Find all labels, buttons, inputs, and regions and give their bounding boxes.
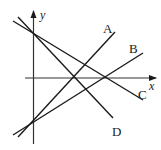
line-b	[13, 53, 143, 135]
line-d-label: D	[112, 124, 121, 139]
line-a-label: A	[103, 21, 113, 36]
line-b-label: B	[129, 41, 138, 56]
line-a	[18, 32, 115, 137]
diagram-canvas: y x A B C D	[0, 0, 161, 150]
x-axis-label: x	[148, 79, 155, 93]
coordinate-diagram: y x A B C D	[0, 0, 161, 150]
line-c-label: C	[138, 87, 147, 102]
line-d	[18, 17, 113, 118]
y-axis-label: y	[39, 8, 46, 22]
